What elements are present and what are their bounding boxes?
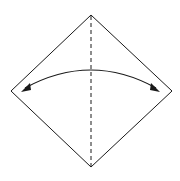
arrowhead-right-icon — [150, 83, 160, 92]
arrowhead-left-icon — [21, 83, 31, 92]
origami-diagram — [0, 0, 180, 181]
